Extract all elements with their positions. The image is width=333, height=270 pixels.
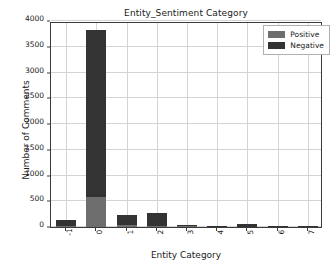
bar-segment-negative [117, 215, 137, 226]
chart-title: Entity_Sentiment Category [50, 8, 322, 18]
bar-segment-negative [56, 220, 76, 226]
bar-segment-negative [177, 225, 197, 226]
x-tick-label: 7 [307, 230, 316, 235]
bar-segment-negative [237, 224, 257, 226]
bar-segment-positive [86, 197, 106, 227]
bar-stack [268, 226, 288, 227]
x-tick-label: 1 [126, 230, 135, 235]
bar-segment-positive [56, 226, 76, 227]
bar-stack [86, 30, 106, 227]
bar-segment-negative [147, 213, 167, 226]
bar-segment-negative [86, 30, 106, 197]
bar-segment-negative [268, 226, 288, 227]
bar-segment-negative [207, 226, 227, 227]
bar-stack [177, 225, 197, 227]
legend-swatch-icon [268, 42, 285, 49]
bar-stack [207, 226, 227, 227]
x-tick-label: 6 [277, 230, 286, 235]
y-tick-label: 3500 [4, 39, 44, 48]
x-tick-label: 3 [186, 230, 195, 235]
x-tick-label: 0 [95, 230, 104, 235]
legend-label: Negative [290, 40, 324, 51]
y-tick-label: 4000 [4, 14, 44, 23]
bar-stack [56, 220, 76, 227]
bar-stack [117, 215, 137, 227]
y-axis-label: Number of Comments [21, 60, 31, 200]
bar-stack [147, 213, 167, 227]
legend-swatch-icon [268, 31, 285, 38]
chart-figure: Entity_Sentiment Category 05001000150020… [0, 0, 333, 270]
bar-segment-positive [117, 225, 137, 227]
bar-stack [237, 224, 257, 227]
bar-segment-positive [147, 226, 167, 227]
legend-item[interactable]: Positive [268, 29, 324, 40]
y-tick-label: 0 [4, 220, 44, 229]
gridline-horizontal [51, 20, 321, 21]
x-tick-label: 4 [216, 230, 225, 235]
x-tick-label: 5 [246, 230, 255, 235]
bar-segment-negative [298, 226, 318, 227]
x-tick-label: 2 [156, 230, 165, 235]
bar-stack [298, 226, 318, 227]
x-tick-label: -1 [65, 228, 74, 235]
bar-segment-positive [177, 226, 197, 227]
x-axis-label: Entity Category [50, 250, 322, 260]
legend-item[interactable]: Negative [268, 40, 324, 51]
legend-label: Positive [290, 29, 319, 40]
legend[interactable]: PositiveNegative [263, 25, 330, 55]
